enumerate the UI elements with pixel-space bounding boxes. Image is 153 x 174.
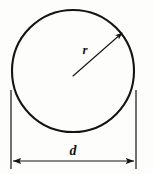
diagram-canvas: r d — [0, 0, 153, 174]
figure-background — [0, 0, 153, 174]
diameter-label: d — [70, 143, 78, 158]
circle-diameter-figure: r d — [0, 0, 153, 174]
